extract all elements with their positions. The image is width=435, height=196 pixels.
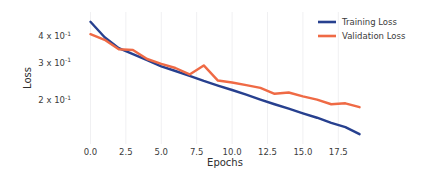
- plot-area-background: [77, 12, 373, 144]
- loss-curve-chart: 0.02.55.07.510.012.515.017.5 4 x 10-13 x…: [0, 0, 435, 196]
- x-tick-label: 2.5: [119, 147, 133, 157]
- x-tick-label: 17.5: [329, 147, 348, 157]
- x-axis-title: Epochs: [207, 157, 243, 168]
- x-tick-label: 12.5: [258, 147, 277, 157]
- y-axis-title: Loss: [22, 67, 33, 89]
- chart-figure: 0.02.55.07.510.012.515.017.5 4 x 10-13 x…: [0, 0, 435, 196]
- x-tick-label: 7.5: [190, 147, 204, 157]
- legend-label-training-loss: Training Loss: [341, 17, 397, 27]
- x-tick-label: 5.0: [155, 147, 169, 157]
- x-tick-label: 10.0: [223, 147, 242, 157]
- x-tick-label: 0.0: [84, 147, 98, 157]
- legend-label-validation-loss: Validation Loss: [342, 31, 406, 41]
- x-tick-label: 15.0: [293, 147, 312, 157]
